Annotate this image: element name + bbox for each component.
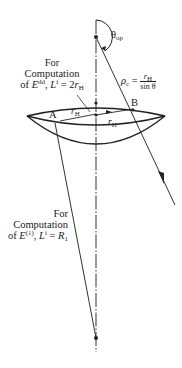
rho-numerator: rH xyxy=(140,72,155,82)
geometry xyxy=(0,0,182,368)
rho-formula: ρc = rHsin θ xyxy=(121,72,156,91)
rh-lower-arrow xyxy=(96,109,133,115)
rho-equals: = xyxy=(129,75,140,86)
far-point-dot xyxy=(94,336,98,340)
point-b-marker xyxy=(132,109,135,112)
point-a-label: A xyxy=(49,109,57,120)
lower-note-line1: For xyxy=(2,208,68,219)
angle-label: θop xyxy=(111,29,123,40)
rh-lower-arrowhead xyxy=(106,110,112,114)
rho-fraction: rHsin θ xyxy=(140,72,155,91)
lower-note: For Computation of E(1), Li = R1 xyxy=(2,208,68,241)
upper-note: For Computation of Edd, Li = 2rH xyxy=(16,57,88,90)
diagram-canvas: θop ρc = rHsin θ For Computation of Edd,… xyxy=(0,0,182,368)
ray-arrowhead xyxy=(158,171,164,184)
upper-note-line3: of Edd, Li = 2rH xyxy=(16,79,88,90)
lower-note-line3: of E(1), Li = R1 xyxy=(2,230,68,241)
lower-note-line2: Computation xyxy=(2,219,68,230)
upper-note-line1: For xyxy=(16,57,88,68)
lens-center-dot-upper xyxy=(94,101,97,104)
rho-denominator: sin θ xyxy=(140,82,155,91)
rh-upper-label: rH xyxy=(71,106,80,117)
rh-lower-label: rH xyxy=(108,117,117,128)
angle-subscript: op xyxy=(116,34,123,42)
lens-center-dot xyxy=(94,113,97,116)
upper-note-line2: Computation xyxy=(16,68,88,79)
angle-arc xyxy=(96,20,112,51)
point-b-label: B xyxy=(131,97,138,108)
